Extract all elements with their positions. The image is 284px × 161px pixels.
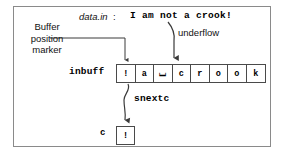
buffer-cell: ! [117,65,136,82]
data-in-value: I am not a crook! [130,10,232,21]
data-in-field-name: data.in [79,11,108,22]
underflow-label: underflow [178,27,219,38]
buffer-cell: o [210,65,229,82]
buffer-cell: o [228,65,247,82]
data-in-separator: : [113,11,116,22]
buffer-cell: c [173,65,192,82]
buffer-cell: ⌴ [154,65,173,82]
char-variable-label: c [100,128,105,138]
buffer-cell: r [191,65,210,82]
inbuff-label: inbuff [69,66,104,77]
char-variable-box: ! [116,126,135,145]
snextc-label: snextc [134,93,169,104]
inbuff-buffer: ! a ⌴ c r o o k [116,64,266,83]
buffer-position-marker-label: Buffer position marker [18,21,76,56]
buffer-cell: a [136,65,155,82]
buffer-cell: k [247,65,266,82]
diagram-canvas: Buffer position marker data.in : I am no… [0,0,284,161]
